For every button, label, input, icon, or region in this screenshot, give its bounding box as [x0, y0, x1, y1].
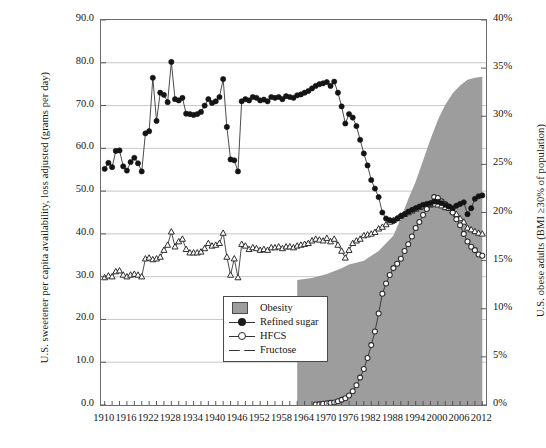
data-point [102, 166, 107, 171]
obesity-swatch-icon [229, 302, 255, 314]
y-tick-label-left: 70.0 [58, 98, 94, 109]
data-point [161, 92, 166, 97]
chart-legend: ObesityRefined sugarHFCSFructose [223, 296, 328, 362]
swatch [232, 302, 248, 314]
data-point [354, 123, 359, 128]
data-point [391, 266, 396, 271]
data-point [409, 234, 414, 239]
data-point [165, 100, 170, 105]
data-point [335, 90, 340, 95]
data-point [480, 193, 485, 198]
data-point [180, 95, 185, 100]
y-tick-label-left: 90.0 [58, 12, 94, 23]
plot-area: ObesityRefined sugarHFCSFructose [100, 19, 487, 406]
y-tick-label-right: 0% [493, 397, 527, 408]
y-tick-label-right: 10% [493, 301, 527, 312]
data-point [224, 254, 230, 259]
open-triangle-icon [229, 344, 255, 356]
legend-label: Obesity [260, 302, 293, 314]
data-point [480, 253, 485, 258]
data-point [417, 219, 422, 224]
data-point [117, 268, 123, 273]
data-point [365, 355, 370, 360]
data-point [380, 291, 385, 296]
data-point [343, 121, 348, 126]
data-point [231, 256, 237, 261]
data-point [361, 151, 366, 156]
data-point [213, 99, 218, 104]
data-point [217, 94, 222, 99]
data-point [183, 246, 189, 251]
y-tick-label-left: 10.0 [58, 354, 94, 365]
legend-label: HFCS [260, 330, 286, 342]
y-tick-label-left: 0.0 [58, 397, 94, 408]
data-point [369, 343, 374, 348]
data-point [169, 59, 174, 64]
data-point [232, 158, 237, 163]
data-point [198, 109, 203, 114]
data-point [139, 169, 144, 174]
legend-item-obesity: Obesity [229, 301, 319, 315]
data-point [469, 206, 474, 211]
data-point [128, 159, 133, 164]
data-point [365, 163, 370, 168]
data-point [221, 76, 226, 81]
data-point [406, 242, 411, 247]
data-point [424, 207, 429, 212]
data-point [117, 148, 122, 153]
data-point [179, 236, 185, 241]
data-point [395, 261, 400, 266]
data-point [202, 103, 207, 108]
legend-label: Refined sugar [260, 316, 319, 328]
data-point [132, 155, 137, 160]
data-point [168, 229, 174, 234]
data-point [235, 169, 240, 174]
data-point [165, 242, 171, 247]
data-point [354, 383, 359, 388]
data-point [235, 274, 241, 279]
data-point [342, 255, 348, 260]
data-point [413, 225, 418, 230]
y-tick-label-left: 80.0 [58, 55, 94, 66]
data-point [346, 247, 352, 252]
data-point [265, 99, 270, 104]
data-point [121, 164, 126, 169]
y-tick-label-left: 60.0 [58, 140, 94, 151]
y-tick-label-right: 40% [493, 12, 527, 23]
data-point [372, 329, 377, 334]
y-axis-right-title: U.S. obese adults (BMI ≥30% of populatio… [535, 71, 546, 371]
data-point [150, 75, 155, 80]
legend-marker [238, 332, 246, 340]
data-point [358, 375, 363, 380]
y-tick-label-right: 30% [493, 108, 527, 119]
y-tick-label-left: 40.0 [58, 226, 94, 237]
data-point [331, 236, 337, 241]
data-point [384, 281, 389, 286]
x-tick-label: 2012 [461, 412, 501, 423]
legend-item-fructose: Fructose [229, 343, 319, 357]
data-point [372, 186, 377, 191]
data-point [332, 79, 337, 84]
y-tick-label-left: 30.0 [58, 269, 94, 280]
data-point [124, 168, 129, 173]
data-point [147, 129, 152, 134]
data-point [472, 248, 477, 253]
y-tick-label-right: 20% [493, 205, 527, 216]
data-point [454, 217, 459, 222]
filled-circle-icon [229, 316, 255, 328]
data-point [106, 160, 111, 165]
data-point [339, 104, 344, 109]
legend-item-hfcs: HFCS [229, 329, 319, 343]
open-circle-icon [229, 330, 255, 342]
data-point [347, 393, 352, 398]
data-point [361, 367, 366, 372]
data-point [465, 239, 470, 244]
data-point [358, 137, 363, 142]
data-point [376, 195, 381, 200]
y-tick-label-right: 25% [493, 156, 527, 167]
data-point [402, 249, 407, 254]
data-point [421, 213, 426, 218]
y-tick-label-right: 15% [493, 253, 527, 264]
data-point [157, 254, 163, 259]
data-point [154, 118, 159, 123]
